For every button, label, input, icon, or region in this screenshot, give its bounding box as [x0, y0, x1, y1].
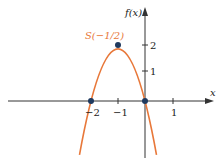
- root-point-left: [88, 98, 94, 104]
- tick-label-y-1: 1: [150, 66, 156, 77]
- x-axis-label: x: [210, 87, 216, 98]
- function-graph: f(x) x S(−1/2) −2 −1 1 1 2: [0, 0, 221, 161]
- tick-label-y-2: 2: [150, 40, 156, 51]
- vertex-label: S(−1/2): [85, 30, 124, 41]
- y-axis-arrow-icon: [142, 7, 148, 16]
- x-axis-arrow-icon: [205, 98, 214, 104]
- vertex-point: [115, 42, 121, 48]
- tick-label-x-minus-1: −1: [113, 107, 128, 118]
- tick-label-x-1: 1: [171, 107, 177, 118]
- root-point-origin: [142, 98, 148, 104]
- tick-label-x-minus-2: −2: [85, 107, 100, 118]
- y-axis-label: f(x): [124, 7, 142, 18]
